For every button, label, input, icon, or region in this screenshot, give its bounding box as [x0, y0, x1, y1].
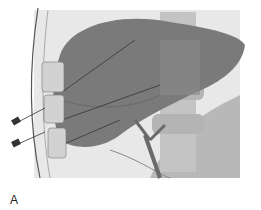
medical-illustration: A — [0, 0, 261, 210]
panel-label: A — [10, 193, 18, 207]
liver-suture-illustration — [0, 0, 261, 210]
